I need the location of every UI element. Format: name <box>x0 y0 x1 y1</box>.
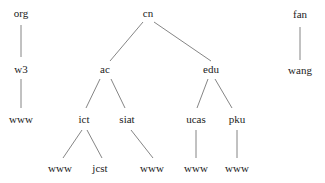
tree-nodes: orgw3wwwcnaceduictsiatucaspkuwwwjcstwwww… <box>9 7 312 174</box>
tree-edges <box>21 22 300 158</box>
tree-node-siat: siat <box>119 113 134 125</box>
tree-node-ucas: ucas <box>186 113 206 125</box>
tree-node-ict: ict <box>79 113 90 125</box>
tree-node-pku-www: www <box>225 162 249 174</box>
tree-node-cn: cn <box>143 7 154 19</box>
tree-node-ucas-www: www <box>184 162 208 174</box>
tree-node-ac: ac <box>100 63 110 75</box>
tree-node-pku: pku <box>229 113 246 125</box>
tree-edge <box>215 79 232 108</box>
tree-node-ict-www: www <box>48 162 72 174</box>
tree-edge <box>111 79 125 108</box>
tree-node-siat-www: www <box>140 162 164 174</box>
tree-edge <box>87 130 102 158</box>
tree-node-wang: wang <box>288 64 312 76</box>
tree-edge <box>197 79 208 108</box>
tree-node-fan: fan <box>293 8 308 20</box>
tree-edge <box>63 130 82 158</box>
tree-edge <box>154 22 211 61</box>
tree-edge <box>131 130 153 158</box>
tree-node-org-www: www <box>9 113 33 125</box>
tree-node-edu: edu <box>203 63 219 75</box>
tree-edge <box>86 79 100 108</box>
tree-node-w3: w3 <box>14 63 28 75</box>
tree-node-org: org <box>14 7 29 19</box>
tree-diagram: orgw3wwwcnaceduictsiatucaspkuwwwjcstwwww… <box>0 0 325 183</box>
tree-edge <box>110 22 143 61</box>
tree-node-jcst: jcst <box>91 162 107 174</box>
